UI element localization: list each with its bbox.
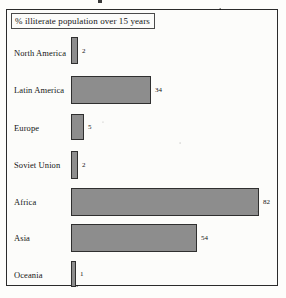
bar-value-label: 2 — [82, 47, 86, 55]
bar-value-label: 82 — [263, 198, 270, 206]
bar-category-label: Oceania — [14, 270, 43, 280]
bar — [71, 224, 197, 252]
plot-area: North America2Latin America34Europe5Sovi… — [7, 36, 279, 286]
bar-value-label: 34 — [155, 86, 162, 94]
bar-value-label: 5 — [88, 123, 92, 131]
bar — [71, 151, 78, 179]
bar-value-label: 1 — [80, 270, 84, 278]
bar — [71, 261, 76, 287]
bar — [71, 188, 259, 216]
bar-category-label: Asia — [14, 233, 30, 243]
scan-artifact — [98, 0, 102, 3]
bar — [71, 76, 151, 104]
chart-frame: % illiterate population over 15 years No… — [6, 9, 278, 286]
bar-category-label: North America — [14, 48, 66, 58]
cropped-headline-sliver — [0, 0, 286, 8]
bar-value-label: 54 — [201, 234, 208, 242]
bar — [71, 114, 84, 140]
bar-value-label: 2 — [82, 161, 86, 169]
bar — [71, 37, 78, 64]
chart-title: % illiterate population over 15 years — [15, 16, 150, 26]
bar-category-label: Soviet Union — [14, 160, 60, 170]
bar-category-label: Africa — [14, 197, 36, 207]
bar-category-label: Europe — [14, 123, 39, 133]
chart-title-box: % illiterate population over 15 years — [11, 13, 155, 29]
bar-category-label: Latin America — [14, 85, 64, 95]
scanned-page: % illiterate population over 15 years No… — [0, 0, 286, 298]
